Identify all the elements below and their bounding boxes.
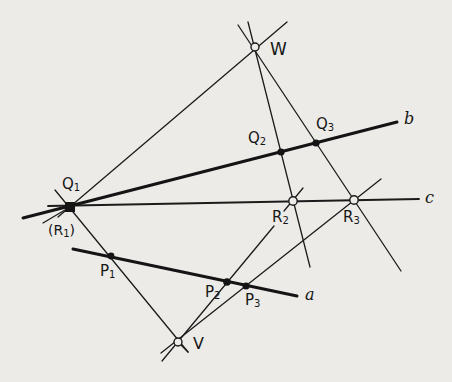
label-r2-sub: 2 [282, 215, 288, 226]
label-r3: R3 [343, 210, 360, 226]
label-p1-sub: 1 [109, 269, 115, 280]
point-q3 [312, 139, 319, 146]
label-q3-main: Q [316, 115, 328, 133]
label-q1-sub: 1 [74, 182, 80, 193]
label-p2-sub: 2 [214, 290, 220, 301]
label-p3-sub: 3 [254, 298, 260, 309]
label-q3-sub: 3 [328, 122, 334, 133]
point-p3 [242, 282, 249, 289]
label-q2: Q2 [248, 131, 266, 147]
label-v: V [193, 336, 204, 352]
point-q1 [65, 202, 75, 212]
point-r2 [289, 197, 297, 205]
label-q3: Q3 [316, 117, 334, 133]
line-w-q3-r3 [238, 25, 401, 271]
label-r1: (R1) [48, 223, 75, 239]
label-p1-main: P [100, 262, 109, 280]
point-v [174, 338, 182, 346]
point-p1 [108, 253, 115, 260]
label-r1-suffix: ) [70, 222, 75, 238]
line-v-p3-r3 [161, 179, 381, 353]
line-c [48, 199, 419, 206]
label-q1: Q1 [62, 177, 80, 193]
point-p2 [223, 278, 231, 286]
line-w-q1 [58, 22, 287, 217]
point-w [251, 43, 259, 51]
label-r1-prefix: (R [48, 222, 63, 238]
label-w: W [270, 41, 287, 58]
label-p3: P3 [245, 293, 260, 309]
label-p3-main: P [245, 291, 254, 309]
projective-construction-diagram: W Q1 Q2 Q3 (R1) R2 R3 P1 P2 P3 V a b c [0, 0, 452, 382]
label-r3-main: R [343, 208, 353, 226]
label-p2-main: P [205, 283, 214, 301]
label-p1: P1 [100, 264, 115, 280]
point-q2 [277, 148, 284, 155]
label-r3-sub: 3 [353, 215, 359, 226]
label-line-c: c [425, 190, 434, 206]
label-line-a: a [305, 287, 315, 303]
line-q1-p1-v [55, 190, 188, 352]
label-p2: P2 [205, 285, 220, 301]
label-line-b: b [404, 111, 414, 127]
label-r2: R2 [272, 210, 289, 226]
label-r2-main: R [272, 208, 282, 226]
label-q1-main: Q [62, 175, 74, 193]
point-r3 [350, 196, 358, 204]
label-q2-main: Q [248, 129, 260, 147]
label-q2-sub: 2 [260, 136, 266, 147]
